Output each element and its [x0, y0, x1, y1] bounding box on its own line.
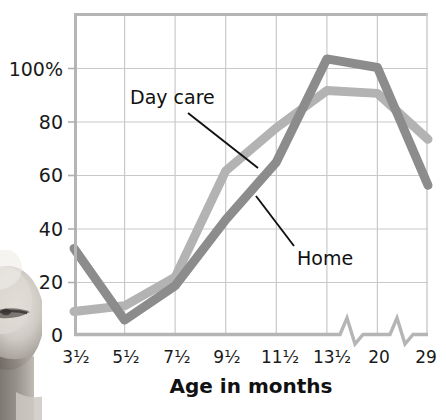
y-tick-label-20: 20	[39, 271, 63, 293]
line-chart-figure: 100% 80 60 40 20 0 3¹⁄₂ 5¹⁄₂ 7¹⁄₂ 9¹⁄₂ 1…	[0, 0, 446, 420]
x-tick-label-1: 5¹⁄₂	[112, 347, 139, 367]
y-tick-label-60: 60	[39, 164, 63, 186]
x-axis-title: Age in months	[170, 374, 333, 398]
y-tick-label-0: 0	[51, 324, 63, 346]
x-tick-label-6: 20	[368, 347, 390, 367]
x-tick-label-2: 7¹⁄₂	[163, 347, 190, 367]
y-tick-label-100: 100%	[9, 58, 63, 80]
plot-area	[74, 13, 428, 335]
x-tick-label-5: 13¹⁄₂	[313, 347, 351, 367]
chart-svg: 100% 80 60 40 20 0 3¹⁄₂ 5¹⁄₂ 7¹⁄₂ 9¹⁄₂ 1…	[0, 0, 446, 420]
x-tick-label-3: 9¹⁄₂	[213, 347, 240, 367]
y-tick-label-40: 40	[39, 218, 63, 240]
x-tick-label-4: 11¹⁄₂	[261, 347, 299, 367]
x-tick-label-7: 29	[415, 347, 437, 367]
annotation-label-day-care: Day care	[130, 86, 215, 108]
y-tick-label-80: 80	[39, 111, 63, 133]
x-tick-label-0: 3¹⁄₂	[62, 347, 89, 367]
annotation-label-home: Home	[297, 247, 353, 269]
